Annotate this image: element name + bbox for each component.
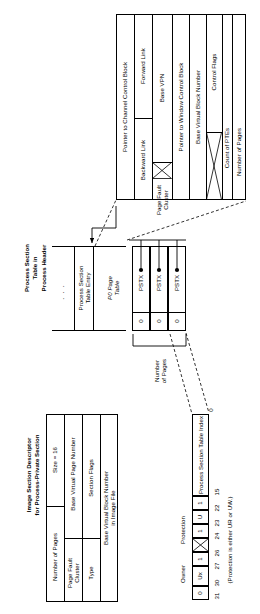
diagram-canvas: Pointer to Channel Control Block Forward… (0, 0, 260, 614)
pte-row-1-type: PSTX (137, 275, 144, 291)
pste-field-label-pointer-window-control-block: Pointer to Window Control Block (177, 63, 184, 152)
pste-split-vpn-pfc (152, 162, 172, 163)
pstx-value-bit26: 1 (196, 557, 203, 560)
pste-sep-7 (232, 14, 233, 200)
isd-split-row-3 (82, 538, 100, 539)
isd-split-row-1 (46, 506, 64, 507)
process-section-table-heading: Process Section Table in Process Header (23, 230, 48, 306)
pste-field-label-number-of-pages: Number of Pages (235, 128, 242, 176)
pste-feed-connector (92, 206, 116, 243)
pstx-bit-number-27: 27 (213, 563, 220, 570)
pste-label-line-2: Table Entry (84, 258, 91, 318)
p0-rail-bottom (104, 330, 126, 331)
pste-field-label-page-fault-cluster: Page Fault Cluster (155, 177, 169, 223)
pte-row-2-valid-bit: 0 (155, 319, 162, 322)
pste-field-label-forward-link: Forward Link (139, 48, 146, 84)
pst-strip-bottom-left (52, 330, 74, 331)
pst-heading-line-2: Table in (32, 230, 40, 306)
isd-field-base-virtual-page-number: Base Virtual Page Number (69, 437, 76, 510)
p0-page-table-label: P0 Page Table (106, 261, 120, 315)
pte-row-3-valid-bit: 0 (173, 319, 180, 322)
pstx-value-owner: U (196, 515, 203, 519)
pstx-value-bit23b: 1 (196, 529, 203, 532)
p0-label-line-1: P0 Page (106, 261, 113, 315)
pste-sep-5 (206, 14, 207, 200)
pstx-footnote: (Protection is either UR or UW.) (226, 497, 233, 584)
p0-rail-top (104, 246, 126, 247)
isd-bvbn-line-2: in Image File (109, 453, 116, 563)
number-of-pages-bracket (133, 334, 186, 346)
pte-number-of-pages-bracket-label: Number of Pages (153, 348, 167, 394)
nop-line-1: Number (153, 348, 160, 394)
isd-field-page-fault-cluster: Page Fault Cluster (66, 547, 80, 599)
pstx-value-bit22: 1 (196, 501, 203, 504)
isd-row-sep-2 (82, 414, 83, 602)
pstx-blowup-leader-top (186, 333, 209, 413)
p0-label-line-2: Table (113, 261, 120, 315)
pste-split-forward-backward (134, 118, 152, 119)
pte-row-2-valid-split (150, 312, 168, 313)
pste-field-label-backward-link: Backward Link (139, 140, 146, 180)
pstx-value-protection: Ux (196, 572, 203, 580)
pstx-bit-number-23: 23 (213, 520, 220, 527)
pste-field-label-base-vpn: Base VPN (158, 74, 165, 103)
pte-row-2-type: PSTX (155, 275, 162, 291)
pstx-value-process-section-table-index: Process Section Table Index (197, 416, 204, 494)
pstx-bit-number-26: 26 (213, 550, 220, 557)
pste-field-label-control-flags: Control Flags (210, 54, 217, 91)
isd-heading-line-2: for Process-Private Section (33, 415, 41, 535)
pste-sep-2 (152, 14, 153, 200)
isd-field-type: Type (87, 566, 94, 579)
pst-strip-top-left (52, 246, 74, 247)
pst-heading-line-1: Process Section (23, 230, 31, 306)
isd-field-section-flags: Section Flags (87, 459, 94, 497)
isd-field-base-virtual-block-number: Base Virtual Block Number in Image File (102, 453, 116, 563)
pste-field-label-count-of-ptes: Count of PTEs (223, 128, 230, 168)
isd-split-row-2 (64, 538, 82, 539)
pfc-line-2: Cluster (162, 177, 169, 223)
pste-field-label-base-virtual-block-number: Base Virtual Block Number (194, 70, 201, 144)
pte-row-3-type: PSTX (173, 275, 180, 291)
pstx-bit-number-22: 22 (213, 505, 220, 512)
pfc-line-1: Page Fault (155, 177, 162, 223)
isd-field-size: Size = 16 (51, 447, 58, 473)
pst-ellipsis: . . . (58, 284, 65, 300)
pstx-group-label-owner: Owner (179, 565, 186, 583)
nop-line-2: of Pages (160, 348, 167, 394)
isd-heading-line-1: Image Section Descriptor (25, 415, 33, 535)
pstx-bit-number-24: 24 (213, 533, 220, 540)
pstx-cell-unused-crossed (192, 538, 209, 552)
pte-row-1-valid-bit: 0 (137, 319, 144, 322)
isd-field-number-of-pages: Number of Pages (51, 533, 58, 581)
pte-row-3-valid-split (168, 312, 186, 313)
isd-pfc-line-2: Cluster (73, 547, 80, 599)
pstx-blowup-leader-bottom (170, 334, 192, 414)
pst-strip-bottom-right (94, 330, 104, 331)
pstx-bit-number-0: 0 (207, 408, 214, 411)
pstx-bit-number-30: 30 (213, 580, 220, 587)
isd-bvbn-line-1: Base Virtual Block Number (102, 453, 109, 563)
expansion-line-pte-to-block (127, 201, 246, 240)
isd-pfc-line-1: Page Fault (66, 547, 73, 599)
pste-field-label-pointer-channel-control-block: Pointer to Channel Control Block (121, 62, 128, 152)
pste-sep-3 (172, 14, 173, 200)
pstx-bit-number-31: 31 (213, 593, 220, 600)
expansion-line-upper (95, 200, 116, 246)
pst-strip-top-right (94, 246, 104, 247)
pste-sep-1 (134, 14, 135, 200)
pstx-value-bit31: 0 (196, 591, 203, 594)
pste-sep-6 (222, 14, 223, 200)
image-section-descriptor-heading: Image Section Descriptor for Process-Pri… (25, 415, 42, 535)
pste-split-flags-ptes (206, 132, 222, 133)
pstx-group-label-protection: Protection (179, 516, 186, 544)
pst-heading-line-3: Process Header (40, 230, 48, 306)
process-section-table-entry-label: Process Section Table Entry (77, 258, 91, 318)
pste-sep-4 (189, 14, 190, 200)
pstx-bit-number-15: 15 (213, 489, 220, 496)
pste-label-line-1: Process Section (77, 258, 84, 318)
expansion-line-lower (95, 200, 116, 246)
pte-row-1-valid-split (132, 312, 150, 313)
